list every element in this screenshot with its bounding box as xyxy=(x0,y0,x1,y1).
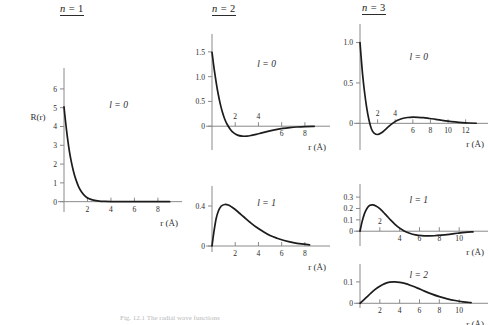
x-tick-label: 8 xyxy=(156,205,160,214)
x-tick-label: 10 xyxy=(455,306,463,315)
y-tick-label: 1.0 xyxy=(344,38,354,47)
y-tick-label: 0 xyxy=(53,198,57,207)
y-tick-label: 2 xyxy=(53,160,57,169)
y-tick-label: 0.1 xyxy=(344,216,354,225)
y-tick-label: 0 xyxy=(201,242,205,251)
x-tick-label: 10 xyxy=(444,126,452,135)
y-tick-label: 5 xyxy=(53,104,57,113)
column-title-value: 2 xyxy=(230,3,236,14)
figure-caption: Fig. 12.1 The radial wave functions xyxy=(120,314,220,322)
orbital-label: l = 0 xyxy=(410,52,429,62)
plot-panel-n3-l1: 00.10.20.3468102l = 1r (Å) xyxy=(318,180,490,268)
orbital-label: l = 1 xyxy=(257,198,276,208)
column-title-equals: = xyxy=(66,3,78,14)
column-title-n2: n = 2 xyxy=(212,3,236,16)
orbital-label: l = 2 xyxy=(410,270,429,280)
x-tick-label: 2 xyxy=(233,249,237,258)
x-tick-label: 4 xyxy=(398,306,402,315)
y-tick-label: 0 xyxy=(349,119,353,128)
y-tick-label: 0.5 xyxy=(344,79,354,88)
x-tick-label: 4 xyxy=(398,234,402,243)
y-tick-label: 0.4 xyxy=(196,202,206,211)
orbital-label: l = 0 xyxy=(257,59,276,69)
x-tick-label: 2 xyxy=(378,306,382,315)
column-title-equals: = xyxy=(218,3,230,14)
x-tick-label: 8 xyxy=(303,249,307,258)
orbital-label: l = 1 xyxy=(410,195,429,205)
column-title-n3: n = 3 xyxy=(362,2,386,15)
x-axis-label: r (Å) xyxy=(466,139,484,149)
plot-panel-n3-l0: 00.51.068101224l = 0r (Å) xyxy=(318,18,490,170)
radial-wavefunction-curve xyxy=(360,282,471,303)
y-tick-label: 1.5 xyxy=(196,48,206,57)
x-tick-label: 8 xyxy=(429,126,433,135)
y-axis-label: R(r) xyxy=(31,112,46,122)
column-title-n1: n = 1 xyxy=(60,3,84,16)
y-tick-label: 4 xyxy=(53,122,57,131)
y-tick-label: 3 xyxy=(53,141,57,150)
y-tick-label: 0 xyxy=(349,299,353,308)
x-tick-label: 4 xyxy=(257,112,261,121)
radial-wavefunction-figure: n = 1n = 2n = 301234562468l = 0r (Å)R(r)… xyxy=(0,0,493,325)
plot-panel-n1-l0: 01234562468l = 0r (Å)R(r) xyxy=(18,62,178,234)
column-title-value: 1 xyxy=(78,3,84,14)
radial-wavefunction-curve xyxy=(64,107,170,202)
x-tick-label: 6 xyxy=(280,249,284,258)
x-tick-label: 2 xyxy=(378,217,382,226)
y-tick-label: 0 xyxy=(349,227,353,236)
x-tick-label: 2 xyxy=(233,112,237,121)
x-tick-label: 6 xyxy=(280,129,284,138)
column-title-equals: = xyxy=(368,2,380,13)
y-tick-label: 0 xyxy=(201,122,205,131)
x-tick-label: 8 xyxy=(437,306,441,315)
radial-wavefunction-curve xyxy=(212,204,310,246)
y-tick-label: 0.2 xyxy=(344,204,354,213)
x-tick-label: 2 xyxy=(86,205,90,214)
x-tick-label: 4 xyxy=(393,109,397,118)
plot-panel-n2-l1: 00.42468l = 1r (Å) xyxy=(168,182,330,274)
x-tick-label: 4 xyxy=(109,205,113,214)
x-axis-label: r (Å) xyxy=(466,319,484,325)
x-tick-label: 10 xyxy=(455,234,463,243)
x-tick-label: 6 xyxy=(133,205,137,214)
y-tick-label: 6 xyxy=(53,85,57,94)
plot-panel-n3-l2: 00.1246810l = 2r (Å) xyxy=(318,262,490,324)
y-tick-label: 1.0 xyxy=(196,73,206,82)
orbital-label: l = 0 xyxy=(109,100,128,110)
plot-panel-n2-l0: 00.51.01.56824l = 0r (Å) xyxy=(168,28,330,170)
column-title-value: 3 xyxy=(380,2,386,13)
y-tick-label: 0.1 xyxy=(344,278,354,287)
x-tick-label: 2 xyxy=(376,109,380,118)
x-tick-label: 6 xyxy=(411,126,415,135)
x-tick-label: 8 xyxy=(303,129,307,138)
x-tick-label: 12 xyxy=(462,126,470,135)
y-tick-label: 0.3 xyxy=(344,193,354,202)
x-tick-label: 4 xyxy=(257,249,261,258)
x-axis-label: r (Å) xyxy=(466,247,484,257)
y-tick-label: 1 xyxy=(53,179,57,188)
y-tick-label: 0.5 xyxy=(196,97,206,106)
x-tick-label: 6 xyxy=(418,306,422,315)
